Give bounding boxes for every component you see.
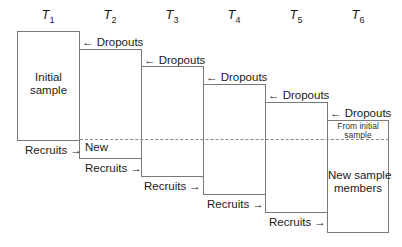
period-t4: T4 bbox=[219, 7, 249, 25]
box-t3 bbox=[141, 66, 204, 177]
recruits-label-t2: Recruits → bbox=[25, 144, 82, 156]
initial-new-divider bbox=[80, 139, 389, 140]
new-members-label-2: members bbox=[328, 182, 388, 195]
dropouts-label-t2: ← Dropouts bbox=[82, 36, 143, 48]
recruits-label-t5: Recruits → bbox=[207, 198, 264, 210]
period-t5: T5 bbox=[281, 7, 311, 25]
new-members-label-1: New sample bbox=[328, 169, 388, 182]
recruits-label-t6: Recruits → bbox=[269, 216, 326, 228]
period-t1: T1 bbox=[33, 7, 63, 25]
period-t6: T6 bbox=[343, 7, 373, 25]
recruits-label-t3: Recruits → bbox=[85, 162, 142, 174]
box-t5 bbox=[265, 102, 328, 213]
box-t6: From initial sample New sample members bbox=[327, 120, 389, 233]
dropouts-label-t5: ← Dropouts bbox=[268, 89, 329, 101]
dropouts-label-t4: ← Dropouts bbox=[206, 71, 267, 83]
initial-sample-label-2: sample bbox=[18, 84, 79, 97]
box-t1-initial-sample: Initial sample bbox=[17, 31, 80, 141]
new-label: New bbox=[85, 141, 108, 153]
dropouts-label-t6: ← Dropouts bbox=[330, 107, 391, 119]
period-t2: T2 bbox=[95, 7, 125, 25]
dropouts-label-t3: ← Dropouts bbox=[144, 54, 205, 66]
initial-sample-label-1: Initial bbox=[18, 71, 79, 84]
box-t2: New bbox=[79, 49, 142, 159]
recruits-label-t4: Recruits → bbox=[144, 180, 201, 192]
period-t3: T3 bbox=[157, 7, 187, 25]
